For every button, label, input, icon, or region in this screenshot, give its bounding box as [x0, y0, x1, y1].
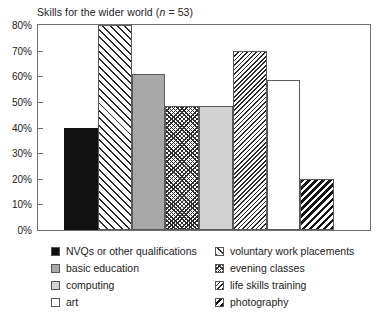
legend-item: art — [51, 294, 226, 311]
legend-item-label: art — [66, 297, 78, 308]
chart-title: Skills for the wider world (n = 53) — [37, 6, 193, 18]
bar-photography — [300, 179, 334, 230]
legend-swatch-icon — [51, 281, 60, 290]
y-axis-tick-label: 50% — [0, 96, 32, 107]
legend-swatch-icon — [51, 247, 60, 256]
legend-item-label: photography — [230, 297, 288, 308]
y-axis-tick-label: 10% — [0, 199, 32, 210]
bar-art — [267, 80, 301, 230]
bar-basic-education — [132, 74, 166, 230]
legend-item: evening classes — [215, 260, 380, 277]
legend-item: life skills training — [215, 277, 380, 294]
y-axis-tick-label: 70% — [0, 45, 32, 56]
legend-column-right: voluntary work placementsevening classes… — [215, 243, 380, 311]
bar-voluntary-work-placements — [98, 25, 132, 230]
legend-swatch-icon — [215, 281, 224, 290]
chart-legend: NVQs or other qualificationsbasic educat… — [37, 243, 377, 321]
legend-item: computing — [51, 277, 226, 294]
y-axis-tick-label: 40% — [0, 122, 32, 133]
legend-item-label: life skills training — [230, 280, 306, 291]
y-axis-tick-label: 60% — [0, 71, 32, 82]
legend-swatch-icon — [215, 264, 224, 273]
bar-computing — [199, 106, 233, 230]
y-axis-labels: 80%70%60%50%40%30%20%10%0% — [0, 24, 34, 231]
y-axis-tick-label: 20% — [0, 173, 32, 184]
legend-item: NVQs or other qualifications — [51, 243, 226, 260]
chart-title-prefix: Skills for the wider world ( — [37, 6, 159, 18]
legend-item: basic education — [51, 260, 226, 277]
bar-evening-classes — [165, 106, 199, 230]
legend-item-label: computing — [66, 280, 114, 291]
y-axis-tick-label: 0% — [0, 225, 32, 236]
bar-nvqs-or-other-qualifications — [64, 128, 98, 231]
legend-swatch-icon — [51, 264, 60, 273]
bar-life-skills-training — [233, 51, 267, 230]
legend-item: photography — [215, 294, 380, 311]
legend-swatch-icon — [215, 298, 224, 307]
y-axis-tick-label: 30% — [0, 148, 32, 159]
legend-item-label: voluntary work placements — [230, 246, 354, 257]
legend-swatch-icon — [51, 298, 60, 307]
chart-title-suffix: = 53) — [165, 6, 193, 18]
bars-layer — [38, 25, 370, 230]
legend-column-left: NVQs or other qualificationsbasic educat… — [51, 243, 226, 311]
legend-item-label: evening classes — [230, 263, 305, 274]
chart-container: Skills for the wider world (n = 53) 80%7… — [0, 0, 380, 324]
legend-item-label: basic education — [66, 263, 139, 274]
legend-item-label: NVQs or other qualifications — [66, 246, 197, 257]
legend-swatch-icon — [215, 247, 224, 256]
legend-item: voluntary work placements — [215, 243, 380, 260]
y-axis-tick-label: 80% — [0, 20, 32, 31]
